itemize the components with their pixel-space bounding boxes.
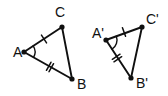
vertex-dot-C-prime: [139, 24, 144, 29]
geometry-figure: ABC A'B'C': [0, 0, 168, 96]
vertex-dot-C: [59, 24, 64, 29]
vertex-label-B-prime: B': [136, 75, 148, 91]
vertex-label-C: C: [55, 4, 65, 20]
vertex-label-C-prime: C': [146, 11, 159, 27]
vertex-label-B: B: [77, 76, 86, 92]
vertex-label-A-prime: A': [92, 25, 104, 41]
vertex-dot-A-prime: [103, 37, 108, 42]
vertex-dot-B-prime: [128, 75, 133, 80]
geometry-canvas: ABC A'B'C': [0, 0, 168, 96]
vertex-label-A: A: [13, 44, 23, 60]
vertex-dot-B: [69, 76, 74, 81]
